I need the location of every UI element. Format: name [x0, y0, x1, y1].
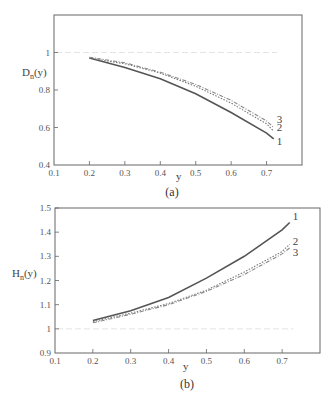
- x-tick-label: 0.1: [48, 168, 59, 178]
- data-lines: [89, 57, 273, 139]
- axis-ticks: 0.10.20.30.40.50.60.70.40.60.81: [39, 48, 273, 179]
- x-tick-label: 0.1: [49, 356, 60, 366]
- y-tick-label: 1.5: [40, 203, 52, 213]
- x-tick-label: 0.2: [84, 168, 95, 178]
- y-tick-label: 1: [46, 48, 51, 58]
- panel-caption: (a): [165, 185, 178, 199]
- x-tick-label: 0.4: [155, 168, 167, 178]
- x-tick-label: 0.6: [239, 356, 251, 366]
- series-label: 1: [277, 135, 283, 147]
- y-tick-label: 0.6: [39, 123, 51, 133]
- panel-caption: (b): [180, 377, 194, 391]
- series-line-1: [89, 58, 273, 139]
- series-line-1: [93, 223, 290, 321]
- series-label: 3: [277, 113, 283, 125]
- y-tick-label: 1.3: [40, 251, 52, 261]
- x-tick-label: 0.3: [125, 356, 137, 366]
- series-labels: 123: [293, 210, 299, 258]
- y-tick-label: 1.4: [40, 227, 52, 237]
- x-tick-label: 0.4: [163, 356, 175, 366]
- y-tick-label: 1.1: [40, 300, 51, 310]
- figure: 0.10.20.30.40.50.60.70.40.60.81 123 Dn(y…: [0, 0, 335, 403]
- chart-panel-b: 0.10.20.30.40.50.60.70.911.11.21.31.41.5…: [12, 203, 320, 391]
- y-tick-label: 0.8: [39, 85, 51, 95]
- x-tick-label: 0.5: [190, 168, 202, 178]
- y-axis-label: Hn(y): [12, 267, 37, 282]
- series-labels: 123: [277, 113, 283, 147]
- data-lines: [93, 223, 290, 323]
- y-axis-label: Dn(y): [22, 66, 47, 81]
- series-line-3: [89, 57, 273, 127]
- y-tick-label: 0.9: [40, 348, 52, 358]
- y-tick-label: 0.4: [39, 160, 51, 170]
- x-tick-label: 0.2: [87, 356, 98, 366]
- x-axis-label: y: [183, 360, 189, 372]
- plot-frame: [54, 15, 302, 165]
- series-label: 3: [293, 246, 299, 258]
- x-tick-label: 0.5: [201, 356, 213, 366]
- axis-ticks: 0.10.20.30.40.50.60.70.911.11.21.31.41.5: [40, 203, 289, 366]
- x-tick-label: 0.3: [119, 168, 131, 178]
- series-line-2: [93, 244, 290, 321]
- x-axis-label: y: [176, 170, 182, 182]
- plot-frame: [55, 208, 320, 353]
- series-label: 1: [293, 210, 299, 222]
- y-tick-label: 1: [47, 324, 52, 334]
- y-tick-label: 1.2: [40, 276, 51, 286]
- x-tick-label: 0.7: [261, 168, 273, 178]
- x-tick-label: 0.6: [226, 168, 238, 178]
- chart-panel-a: 0.10.20.30.40.50.60.70.40.60.81 123 Dn(y…: [22, 15, 302, 199]
- x-tick-label: 0.7: [277, 356, 289, 366]
